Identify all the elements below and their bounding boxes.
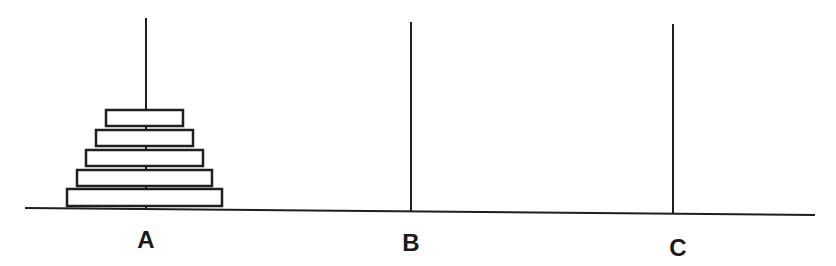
tower-of-hanoi-diagram: ABC bbox=[0, 0, 836, 266]
peg-label-c: C bbox=[669, 234, 686, 261]
disks bbox=[67, 110, 222, 206]
peg-label-a: A bbox=[137, 226, 154, 253]
disk-2 bbox=[96, 130, 193, 146]
disk-3 bbox=[86, 150, 203, 166]
disk-1 bbox=[106, 110, 183, 126]
peg-label-b: B bbox=[402, 229, 419, 256]
base-line bbox=[25, 208, 815, 215]
peg-labels: ABC bbox=[137, 226, 686, 261]
disk-5 bbox=[67, 189, 222, 206]
pegs bbox=[146, 18, 673, 214]
disk-4 bbox=[77, 170, 212, 186]
